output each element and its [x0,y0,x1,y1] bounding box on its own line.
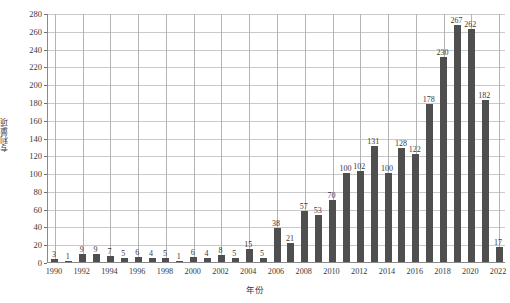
bar [468,29,475,262]
y-axis-tick-label: 40 [34,222,43,232]
gridline-vertical [221,14,222,262]
x-axis-tick-label: 1998 [150,267,180,276]
x-axis-tick-label: 2022 [483,267,510,276]
x-axis-tick-label: 1990 [39,267,69,276]
bar-value-label: 102 [347,162,371,171]
y-axis-tick-label: 160 [29,116,42,126]
y-axis-tick-label: 80 [34,187,43,197]
y-axis-tick-label: 100 [29,169,42,179]
bar-value-label: 53 [306,206,330,215]
gridline-vertical [249,14,250,262]
gridline-vertical [55,14,56,262]
y-axis-tick-label: 140 [29,134,42,144]
x-axis-tick-label: 2004 [233,267,263,276]
gridline-vertical [83,14,84,262]
bar [287,243,294,262]
bar [79,254,86,262]
x-axis-tick-label: 1996 [122,267,152,276]
bar-value-label: 5 [250,249,274,258]
y-axis-tick-mark [44,263,47,264]
bar [343,173,350,262]
bar [329,200,336,262]
x-axis-tick-label: 2012 [344,267,374,276]
bar-value-label: 17 [486,238,510,247]
patent-count-bar-chart: 专利量/项 0204060801001201401601802002202402… [0,0,510,303]
x-axis-tick-label: 2008 [289,267,319,276]
bar [357,171,364,262]
bar-value-label: 230 [431,48,455,57]
bar-value-label: 100 [375,164,399,173]
x-axis-tick-label: 2006 [261,267,291,276]
bar-value-label: 131 [361,137,385,146]
gridline-vertical [138,14,139,262]
bar [301,211,308,262]
y-axis-tick-label: 120 [29,151,42,161]
bar [496,247,503,262]
y-axis-tick-label: 200 [29,80,42,90]
bar-value-label: 122 [403,145,427,154]
gridline-vertical [166,14,167,262]
x-axis-tick-label: 2010 [317,267,347,276]
bar-value-label: 5 [222,249,246,258]
bar-value-label: 70 [320,191,344,200]
x-axis-tick-label: 1994 [94,267,124,276]
bar [274,228,281,262]
gridline-vertical [499,14,500,262]
bar [426,104,433,262]
gridline-vertical [194,14,195,262]
bar [398,148,405,262]
x-axis-baseline [47,262,505,263]
x-axis-tick-label: 2002 [205,267,235,276]
gridline-vertical [110,14,111,262]
y-axis-tick-label: 20 [34,240,43,250]
bar-value-label: 178 [417,95,441,104]
bar-value-label: 15 [236,240,260,249]
bar-value-label: 21 [278,234,302,243]
y-axis-tick-label: 220 [29,62,42,72]
bar-value-label: 182 [472,91,496,100]
x-axis-tick-label: 1992 [67,267,97,276]
x-axis-title: 年份 [0,283,510,295]
bar [371,146,378,262]
bar [412,154,419,262]
bar-value-label: 38 [264,219,288,228]
y-axis-tick-label: 180 [29,98,42,108]
y-axis-tick-label: 240 [29,45,42,55]
bar [440,57,447,262]
bar-value-label: 262 [458,20,482,29]
y-axis-tick-label: 60 [34,205,43,215]
y-axis-title: 专利量/项 [0,118,14,152]
x-axis-tick-label: 2018 [428,267,458,276]
bar [315,215,322,262]
x-axis-tick-label: 2014 [372,267,402,276]
y-axis-tick-label: 280 [29,9,42,19]
bar [454,25,461,262]
x-axis-tick-label: 2016 [400,267,430,276]
y-axis-tick-label: 260 [29,27,42,37]
bar [385,173,392,262]
x-axis-tick-label: 2020 [455,267,485,276]
x-axis-tick-label: 2000 [178,267,208,276]
